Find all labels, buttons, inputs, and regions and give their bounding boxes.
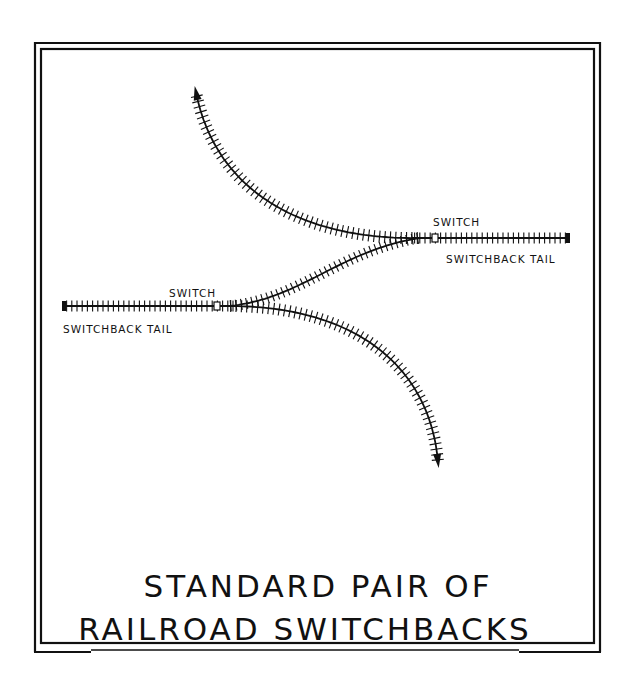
track-tie — [358, 332, 364, 342]
track-tie — [273, 303, 275, 315]
track-tie — [264, 196, 271, 206]
track-tie — [220, 157, 230, 164]
track-tie — [223, 161, 233, 168]
track-tie — [279, 204, 285, 215]
lower-switchback-tail-label: SWITCHBACK TAIL — [63, 323, 173, 335]
track-tie — [371, 341, 378, 351]
track-tie — [404, 376, 414, 383]
track-tie — [379, 231, 380, 243]
lower-tail-bumper-icon — [62, 301, 66, 311]
track-tie — [384, 231, 385, 243]
upper-exit-arrow-icon — [194, 86, 202, 101]
upper-switch-label: SWITCH — [433, 216, 480, 228]
tracks — [62, 86, 570, 468]
lower-exit-track — [228, 300, 444, 462]
track-tie — [412, 390, 422, 396]
track-tie — [415, 395, 426, 401]
upper-switch-icon — [432, 234, 438, 242]
track-tie — [366, 337, 373, 347]
track-tie — [217, 152, 227, 159]
outer-frame-left-top-right — [35, 43, 600, 652]
track-tie — [263, 302, 264, 314]
track-tie — [268, 302, 269, 314]
track-tie — [401, 372, 410, 379]
lower-switchback-tail-track — [64, 301, 238, 312]
lower-exit-arrow-icon — [433, 454, 441, 468]
track-tie — [374, 230, 375, 242]
track-tie — [390, 231, 391, 243]
lower-switch-label: SWITCH — [169, 287, 216, 299]
rail-line — [228, 238, 420, 306]
track-tie — [211, 144, 221, 150]
drawing-frame — [34, 43, 601, 652]
connecting-track — [228, 233, 420, 311]
track-tie — [255, 190, 262, 200]
track-tie — [375, 344, 382, 354]
inner-frame — [41, 49, 594, 643]
lower-switch-icon — [214, 302, 220, 310]
rail-line — [228, 306, 438, 462]
upper-switchback-tail-label: SWITCHBACK TAIL — [446, 253, 556, 265]
title-line-2: RAILROAD SWITCHBACKS — [78, 611, 531, 647]
track-tie — [407, 381, 417, 388]
track-tie — [362, 334, 368, 344]
track-tie — [395, 232, 396, 244]
track-tie — [368, 230, 369, 242]
switchback-diagram: SWITCH SWITCHBACK TAIL SWITCH SWITCHBACK… — [0, 0, 629, 674]
upper-tail-bumper-icon — [566, 233, 570, 243]
track-tie — [214, 148, 224, 154]
track-tie — [247, 301, 248, 313]
track-tie — [274, 201, 280, 211]
upper-exit-track — [191, 92, 420, 244]
track-tie — [409, 385, 419, 391]
track-tie — [260, 193, 267, 203]
track-tie — [353, 329, 359, 340]
track-tie — [269, 199, 275, 209]
title-line-1: STANDARD PAIR OF — [143, 568, 492, 604]
